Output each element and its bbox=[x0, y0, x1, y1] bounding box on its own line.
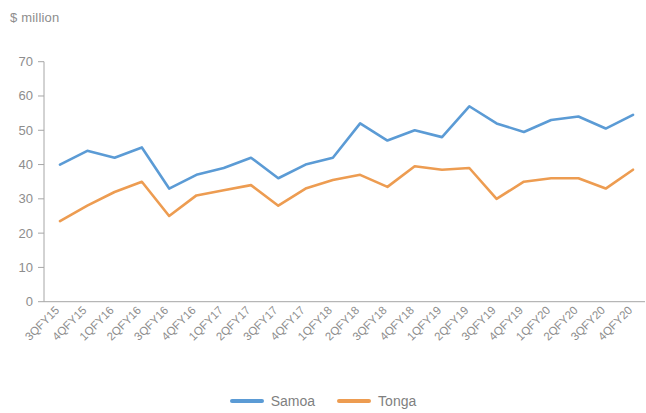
y-axis-tick-label: 50 bbox=[19, 123, 33, 138]
y-axis-tick-label: 30 bbox=[19, 191, 33, 206]
y-axis-tick-label: 40 bbox=[19, 157, 33, 172]
x-axis-tick-labels: 3QFY154QFY151QFY162QFY163QFY164QFY161QFY… bbox=[23, 304, 635, 343]
legend-item-tonga[interactable]: Tonga bbox=[337, 393, 416, 409]
y-axis-tick-label: 70 bbox=[19, 54, 33, 69]
legend-label-samoa: Samoa bbox=[271, 393, 315, 409]
chart-container: $ million 010203040506070 3QFY154QFY151Q… bbox=[0, 0, 646, 413]
plot-area: 010203040506070 3QFY154QFY151QFY162QFY16… bbox=[0, 0, 646, 413]
y-axis-tick-label: 10 bbox=[19, 260, 33, 275]
legend-swatch-samoa bbox=[230, 399, 264, 403]
chart-svg: 010203040506070 3QFY154QFY151QFY162QFY16… bbox=[0, 0, 646, 413]
legend-swatch-tonga bbox=[337, 399, 371, 403]
y-axis-tick-label: 20 bbox=[19, 226, 33, 241]
series-lines bbox=[60, 106, 633, 221]
axis-lines bbox=[44, 62, 645, 302]
y-axis-tick-label: 60 bbox=[19, 88, 33, 103]
legend-label-tonga: Tonga bbox=[378, 393, 416, 409]
y-axis-tick-label: 0 bbox=[26, 294, 33, 309]
y-axis-tick-labels: 010203040506070 bbox=[19, 54, 33, 309]
series-line-tonga bbox=[60, 166, 633, 221]
legend-item-samoa[interactable]: Samoa bbox=[230, 393, 315, 409]
chart-legend: Samoa Tonga bbox=[0, 393, 646, 409]
y-axis-ticks bbox=[38, 62, 44, 302]
